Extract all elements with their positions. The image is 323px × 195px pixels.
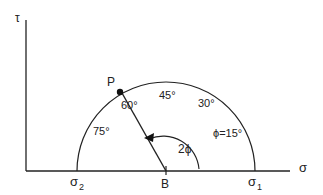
mohr-circle-diagram: τ σ P σ 2 B σ 1 75° 60° 45° 30° ϕ=15° 2ϕ <box>0 0 323 195</box>
center-b-label: B <box>161 177 169 191</box>
two-phi-arc <box>149 136 199 169</box>
sigma1-subscript: 1 <box>257 182 262 192</box>
angle-label-75: 75° <box>93 125 110 137</box>
point-p-marker <box>117 89 123 95</box>
sigma2-subscript: 2 <box>79 182 84 192</box>
sigma2-label: σ <box>70 174 78 189</box>
sigma-axis-label: σ <box>299 160 307 175</box>
angle-label-45: 45° <box>159 89 176 101</box>
angle-label-60: 60° <box>121 99 138 111</box>
point-p-label: P <box>107 75 115 89</box>
angle-label-15: ϕ=15° <box>213 127 242 139</box>
two-phi-label: 2ϕ <box>178 142 192 156</box>
sigma1-label: σ <box>248 174 256 189</box>
angle-label-30: 30° <box>198 97 215 109</box>
tau-axis-label: τ <box>15 11 20 25</box>
